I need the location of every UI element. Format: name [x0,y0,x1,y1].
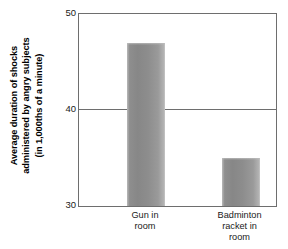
x-label-gun-line-1: Gun in [106,210,184,221]
gridline-40 [79,109,276,110]
x-label-badminton-line-2: racket in [201,221,279,232]
y-tick-label-40: 40 [54,104,76,114]
x-label-gun-in-room: Gun in room [106,210,184,232]
x-label-gun-line-2: room [106,221,184,232]
y-axis-title-line-3: (in 1,000ths of a minute) [32,38,44,175]
x-axis-category-labels: Gun in room Badminton racket in room [78,210,277,249]
y-axis-title: Average duration of shocks administered … [0,0,52,212]
y-axis-title-line-1: Average duration of shocks [7,38,19,175]
bar-badminton-racket-in-room [222,158,260,206]
x-label-badminton-racket-in-room: Badminton racket in room [201,210,279,244]
x-label-badminton-line-3: room [201,232,279,243]
y-tick-label-30: 30 [54,200,76,210]
plot-area [78,13,277,207]
x-label-badminton-line-1: Badminton [201,210,279,221]
bar-gun-in-room [127,43,165,206]
y-tick-label-50: 50 [54,8,76,18]
y-axis-tick-labels: 50 40 30 [52,0,76,249]
bar-chart-figure: Average duration of shocks administered … [0,0,288,249]
y-axis-title-line-2: administered by angry subjects [20,38,32,175]
